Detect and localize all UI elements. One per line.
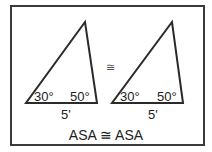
right-triangle-angle-30: 30° <box>120 90 140 103</box>
right-triangle-angle-50: 50° <box>157 90 177 103</box>
left-triangle-side-length: 5' <box>61 108 71 121</box>
caption-asa: ASA ≅ ASA <box>0 127 212 143</box>
left-triangle-angle-30: 30° <box>34 90 54 103</box>
right-triangle-side-length: 5' <box>148 108 158 121</box>
congruence-symbol: ≅ <box>106 61 115 74</box>
left-triangle-angle-50: 50° <box>70 90 90 103</box>
